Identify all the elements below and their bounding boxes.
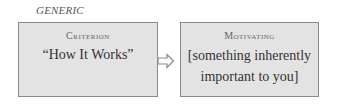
criterion-body: “How It Works”	[19, 47, 157, 63]
motivating-body: [something inherently important to you]	[181, 45, 318, 87]
diagram-label: GENERIC	[36, 4, 84, 16]
criterion-heading: Criterion	[19, 30, 157, 41]
motivating-heading: Motivating	[181, 30, 318, 41]
motivating-box: Motivating [something inherently importa…	[180, 22, 319, 97]
criterion-box: Criterion “How It Works”	[18, 22, 158, 97]
motivating-body-line1: [something inherently	[181, 45, 318, 66]
motivating-body-line2: important to you]	[181, 66, 318, 87]
right-arrow-icon	[157, 53, 175, 69]
